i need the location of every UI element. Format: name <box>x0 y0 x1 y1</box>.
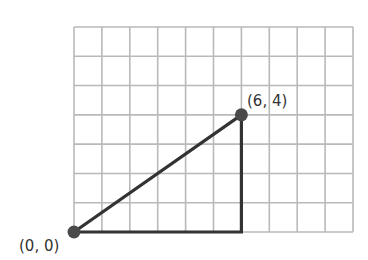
coordinate-grid-figure: (0, 0)(6, 4) <box>0 0 368 260</box>
point-label: (6, 4) <box>247 92 287 110</box>
point-marker <box>235 108 248 121</box>
point-marker <box>68 226 81 239</box>
point-label: (0, 0) <box>19 237 59 255</box>
